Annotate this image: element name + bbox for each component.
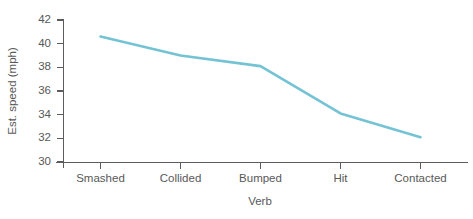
chart-canvas: 42 40 38 36 34 32 30 Smashed Collided Bu… (0, 0, 473, 219)
y-axis-ticks (57, 20, 64, 162)
y-tick-label: 34 (38, 108, 51, 120)
x-axis-ticks (101, 163, 421, 170)
y-axis-title: Est. speed (mph) (6, 47, 18, 135)
y-tick-label: 36 (38, 84, 51, 96)
x-axis-title: Verb (248, 195, 272, 207)
line-chart: 42 40 38 36 34 32 30 Smashed Collided Bu… (0, 0, 473, 219)
x-tick-label-smashed: Smashed (76, 172, 125, 184)
x-tick-label-hit: Hit (333, 172, 348, 184)
y-tick-label: 40 (38, 37, 51, 49)
x-tick-label-contacted: Contacted (394, 172, 446, 184)
y-tick-label: 42 (38, 13, 51, 25)
x-tick-label-collided: Collided (160, 172, 202, 184)
y-tick-label: 38 (38, 60, 51, 72)
y-tick-label: 30 (38, 155, 51, 167)
data-series-line (101, 37, 421, 138)
y-tick-label: 32 (38, 131, 51, 143)
x-tick-label-bumped: Bumped (239, 172, 282, 184)
